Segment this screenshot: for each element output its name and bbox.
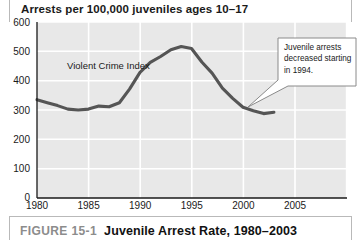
y-tick-label-300: 300 [0,106,30,116]
callout-text: Juvenile arrests decreased starting in 1… [284,42,356,76]
y-tick-label-500: 500 [0,47,30,57]
figure-title: Juvenile Arrest Rate, 1980–2003 [104,224,297,238]
y-tick-label-100: 100 [0,164,30,174]
x-tick-label-1995: 1995 [172,201,212,211]
x-tick-label-1985: 1985 [69,201,109,211]
figure-container: Arrests per 100,000 juveniles ages 10–17 [0,0,361,240]
y-tick-label-200: 200 [0,135,30,145]
caption-edge-right [351,216,352,240]
figure-caption: FIGURE 15-1Juvenile Arrest Rate, 1980–20… [20,221,297,239]
y-tick-label-400: 400 [0,76,30,86]
series-label-violent-crime-index: Violent Crime Index [67,60,150,71]
line-chart-svg [0,0,361,216]
caption-divider [9,216,352,217]
x-tick-label-2000: 2000 [223,201,263,211]
x-tick-label-2005: 2005 [275,201,315,211]
x-tick-label-1990: 1990 [120,201,160,211]
chart-area: 600 500 400 300 200 100 0 1980 1985 1990… [0,0,361,216]
x-tick-label-1980: 1980 [17,201,57,211]
y-tick-label-600: 600 [0,18,30,28]
caption-edge-left [9,216,10,240]
figure-number: FIGURE 15-1 [20,224,97,238]
